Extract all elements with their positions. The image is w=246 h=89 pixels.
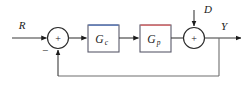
minus-sign-left-junction: − [42, 44, 48, 56]
plus-sign-right-junction: + [191, 33, 197, 44]
reference-input-label: R [18, 19, 26, 31]
plant-block-label: G [147, 33, 156, 45]
output-signal-label: Y [221, 20, 229, 32]
disturbance-input-label: D [203, 3, 212, 15]
block-diagram-svg: + − + R D Y G c G p [0, 0, 246, 89]
plant-block-subscript: p [156, 38, 161, 47]
block-diagram-canvas: + − + R D Y G c G p [0, 0, 246, 89]
plus-sign-left-junction: + [55, 33, 61, 44]
controller-block-label: G [95, 33, 104, 45]
